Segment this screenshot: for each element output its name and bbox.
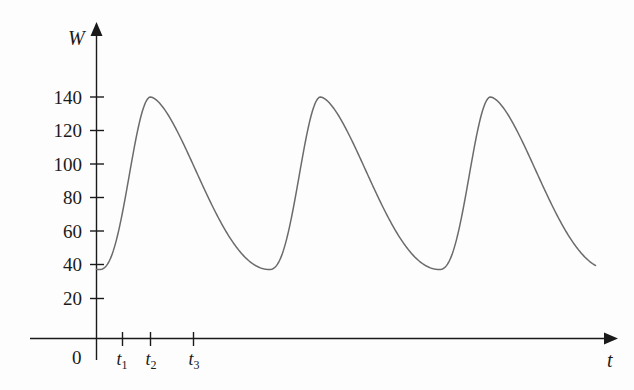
y-tick-label-80: 80 bbox=[34, 188, 82, 207]
x-tick-subscript-t1: 1 bbox=[122, 358, 128, 372]
y-tick-label-100: 100 bbox=[24, 155, 82, 174]
x-tick-subscript-t2: 2 bbox=[151, 358, 157, 372]
y-tick-label-120: 120 bbox=[24, 121, 82, 140]
x-tick-subscript-t3: 3 bbox=[194, 358, 200, 372]
y-axis-title: W bbox=[68, 28, 85, 48]
wave-curve bbox=[97, 97, 596, 270]
x-tick-label-t2: t2 bbox=[145, 350, 156, 371]
y-tick-label-20: 20 bbox=[34, 289, 82, 308]
chart-figure: 20 40 60 80 100 120 140 0 t1 t2 t3 W t bbox=[0, 0, 634, 390]
y-axis-arrowhead bbox=[91, 22, 103, 36]
chart-plot-area bbox=[0, 0, 634, 390]
y-tick-label-140: 140 bbox=[24, 88, 82, 107]
x-axis-title: t bbox=[607, 350, 613, 370]
x-tick-label-t3: t3 bbox=[188, 350, 199, 371]
y-tick-label-40: 40 bbox=[34, 255, 82, 274]
x-axis-arrowhead bbox=[604, 333, 618, 345]
x-tick-label-t1: t1 bbox=[116, 350, 127, 371]
origin-label: 0 bbox=[72, 348, 82, 367]
y-tick-label-60: 60 bbox=[34, 222, 82, 241]
